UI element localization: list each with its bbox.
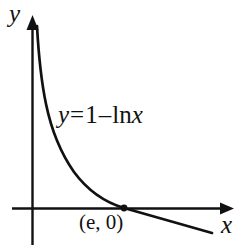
equation-argument: x [132, 101, 143, 128]
equation-lhs: y [58, 101, 69, 128]
axis-label-x: x [221, 212, 232, 237]
function-graph-figure: y x y=1–lnx (e, 0) [0, 0, 246, 245]
equation-equals-sign: = [69, 101, 85, 128]
equation-annotation: y=1–lnx [58, 102, 143, 127]
axis-label-y: y [9, 1, 20, 26]
equation-constant: 1 [85, 101, 98, 128]
curve-y-equals-one-minus-ln-x [37, 26, 212, 233]
x-intercept-label: (e, 0) [79, 212, 123, 233]
equation-ln-operator: ln [112, 101, 131, 128]
equation-minus-sign: – [98, 101, 113, 128]
